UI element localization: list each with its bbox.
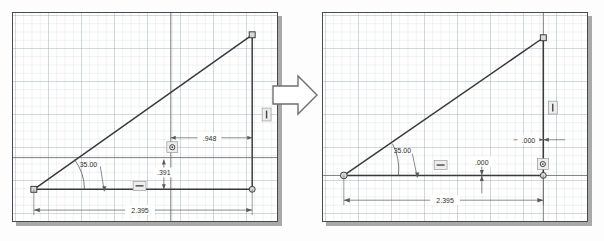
overall-length-dimension-value[interactable]: 2.395 [131,207,149,214]
right-arrow-icon [272,73,318,117]
vertical-constraint-icon[interactable] [262,108,271,121]
screenshot-root: 35.00 .948 .391 2.39 [0,0,604,241]
hypotenuse-line[interactable] [34,35,252,190]
coincident-constraint-icon[interactable] [537,159,548,170]
after-sketch-layer: 35.00 .000 .000 2.39 [323,13,587,221]
horizontal-offset-arrow-right [543,138,548,142]
coincident-constraint-icon[interactable] [167,142,178,153]
vertical-offset-arrow-top [162,160,166,165]
vertical-offset-arrow-bottom [480,175,484,180]
before-panel[interactable]: 35.00 .948 .391 2.39 [12,12,278,222]
top-right-point[interactable] [540,35,546,41]
top-right-point[interactable] [249,32,255,38]
overall-length-arrow-left [34,208,40,212]
overall-length-arrow-left [344,198,350,202]
after-panel-canvas[interactable]: 35.00 .000 .000 2.39 [323,13,587,221]
vertical-offset-dimension-value[interactable]: .000 [475,159,489,166]
overall-length-arrow-right [246,208,252,212]
after-panel[interactable]: 35.00 .000 .000 2.39 [322,12,588,222]
overall-length-dimension-value[interactable]: 2.395 [436,197,454,204]
hypotenuse-line[interactable] [344,38,543,176]
horizontal-constraint-icon[interactable] [133,181,146,190]
vertical-constraint-icon[interactable] [548,101,557,114]
before-sketch-layer: 35.00 .948 .391 2.39 [13,13,277,221]
angle-dimension-value[interactable]: 35.00 [80,161,98,168]
horizontal-offset-dimension-value[interactable]: .000 [522,137,536,144]
overall-length-arrow-right [537,198,543,202]
before-panel-canvas[interactable]: 35.00 .948 .391 2.39 [13,13,277,221]
vertical-offset-arrow-top [480,170,484,175]
horizontal-offset-dimension-value[interactable]: .948 [203,135,217,142]
horizontal-offset-arrow-left [171,136,176,140]
angle-dimension-value[interactable]: 35.00 [394,147,412,154]
vertical-offset-dimension-value[interactable]: .391 [157,169,171,176]
horizontal-constraint-icon[interactable] [434,161,447,170]
